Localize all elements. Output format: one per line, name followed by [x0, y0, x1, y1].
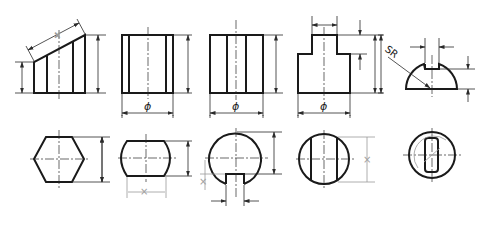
cross-mark: × — [199, 176, 207, 187]
phi-label: ϕ — [144, 100, 151, 113]
figure-circle-chords: × — [296, 115, 375, 190]
phi-label: ϕ — [232, 100, 239, 113]
figure-cylinder-a: ϕ — [122, 27, 192, 116]
figure-cylinder-b: ϕ — [210, 20, 283, 116]
cross-mark: × — [140, 186, 148, 197]
figure-circle-slot: × — [199, 115, 282, 206]
figure-circle-vertical-slot — [403, 128, 461, 184]
figure-cut-cylinder: × — [102, 115, 192, 198]
figure-hexagon — [30, 130, 110, 188]
sr-label: SR — [383, 43, 400, 60]
cross-mark: × — [54, 31, 61, 40]
phi-label: ϕ — [320, 100, 327, 113]
figure-hemisphere-slot: SR — [378, 35, 475, 102]
cross-mark: × — [363, 154, 371, 165]
figure-stepped-cylinder: ϕ — [298, 16, 383, 116]
figure-truncated-prism: × — [15, 19, 106, 99]
drawing-sheet: × ϕ ϕ — [0, 0, 488, 228]
